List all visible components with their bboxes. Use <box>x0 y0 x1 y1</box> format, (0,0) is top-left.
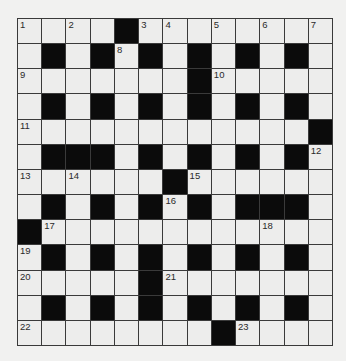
answer-cell[interactable]: 12 <box>309 145 332 169</box>
answer-cell[interactable] <box>115 245 138 269</box>
answer-cell[interactable]: 8 <box>115 44 138 68</box>
answer-cell[interactable] <box>309 69 332 93</box>
answer-cell[interactable] <box>163 94 186 118</box>
answer-cell[interactable]: 2 <box>66 19 89 43</box>
answer-cell[interactable] <box>309 321 332 345</box>
answer-cell[interactable] <box>66 195 89 219</box>
answer-cell[interactable] <box>66 245 89 269</box>
answer-cell[interactable] <box>18 44 41 68</box>
answer-cell[interactable] <box>66 271 89 295</box>
answer-cell[interactable] <box>91 271 114 295</box>
answer-cell[interactable] <box>260 296 283 320</box>
answer-cell[interactable]: 4 <box>163 19 186 43</box>
answer-cell[interactable] <box>260 69 283 93</box>
answer-cell[interactable] <box>163 120 186 144</box>
answer-cell[interactable] <box>309 271 332 295</box>
answer-cell[interactable]: 22 <box>18 321 41 345</box>
answer-cell[interactable] <box>236 220 259 244</box>
answer-cell[interactable] <box>139 69 162 93</box>
answer-cell[interactable] <box>42 321 65 345</box>
answer-cell[interactable] <box>139 170 162 194</box>
answer-cell[interactable] <box>309 94 332 118</box>
answer-cell[interactable] <box>236 271 259 295</box>
answer-cell[interactable] <box>285 69 308 93</box>
answer-cell[interactable]: 13 <box>18 170 41 194</box>
answer-cell[interactable] <box>309 245 332 269</box>
answer-cell[interactable]: 20 <box>18 271 41 295</box>
answer-cell[interactable] <box>66 120 89 144</box>
answer-cell[interactable] <box>260 145 283 169</box>
answer-cell[interactable] <box>115 195 138 219</box>
answer-cell[interactable] <box>115 170 138 194</box>
answer-cell[interactable] <box>66 296 89 320</box>
answer-cell[interactable] <box>91 321 114 345</box>
answer-cell[interactable] <box>285 220 308 244</box>
answer-cell[interactable] <box>91 220 114 244</box>
answer-cell[interactable] <box>236 170 259 194</box>
answer-cell[interactable] <box>260 271 283 295</box>
answer-cell[interactable] <box>212 145 235 169</box>
answer-cell[interactable]: 9 <box>18 69 41 93</box>
answer-cell[interactable]: 15 <box>188 170 211 194</box>
answer-cell[interactable] <box>309 195 332 219</box>
answer-cell[interactable] <box>18 145 41 169</box>
answer-cell[interactable] <box>260 321 283 345</box>
answer-cell[interactable] <box>260 120 283 144</box>
answer-cell[interactable]: 19 <box>18 245 41 269</box>
answer-cell[interactable] <box>66 69 89 93</box>
answer-cell[interactable] <box>66 220 89 244</box>
answer-cell[interactable] <box>115 94 138 118</box>
answer-cell[interactable] <box>236 120 259 144</box>
answer-cell[interactable] <box>163 44 186 68</box>
answer-cell[interactable] <box>260 44 283 68</box>
answer-cell[interactable] <box>163 245 186 269</box>
answer-cell[interactable] <box>66 94 89 118</box>
answer-cell[interactable] <box>42 19 65 43</box>
answer-cell[interactable] <box>139 220 162 244</box>
answer-cell[interactable]: 3 <box>139 19 162 43</box>
answer-cell[interactable] <box>188 120 211 144</box>
answer-cell[interactable] <box>260 170 283 194</box>
answer-cell[interactable] <box>260 245 283 269</box>
answer-cell[interactable] <box>212 271 235 295</box>
answer-cell[interactable] <box>42 271 65 295</box>
answer-cell[interactable] <box>309 220 332 244</box>
answer-cell[interactable] <box>212 296 235 320</box>
answer-cell[interactable]: 14 <box>66 170 89 194</box>
answer-cell[interactable] <box>115 69 138 93</box>
answer-cell[interactable] <box>163 220 186 244</box>
answer-cell[interactable] <box>212 195 235 219</box>
answer-cell[interactable] <box>212 94 235 118</box>
answer-cell[interactable] <box>285 321 308 345</box>
answer-cell[interactable] <box>91 69 114 93</box>
answer-cell[interactable] <box>163 69 186 93</box>
answer-cell[interactable] <box>309 170 332 194</box>
answer-cell[interactable]: 17 <box>42 220 65 244</box>
answer-cell[interactable] <box>188 19 211 43</box>
answer-cell[interactable] <box>115 296 138 320</box>
answer-cell[interactable] <box>212 120 235 144</box>
answer-cell[interactable] <box>285 271 308 295</box>
answer-cell[interactable] <box>163 296 186 320</box>
answer-cell[interactable] <box>139 321 162 345</box>
answer-cell[interactable] <box>188 321 211 345</box>
answer-cell[interactable] <box>236 69 259 93</box>
answer-cell[interactable]: 7 <box>309 19 332 43</box>
answer-cell[interactable] <box>260 94 283 118</box>
answer-cell[interactable] <box>212 44 235 68</box>
answer-cell[interactable]: 23 <box>236 321 259 345</box>
answer-cell[interactable] <box>212 245 235 269</box>
answer-cell[interactable] <box>42 120 65 144</box>
answer-cell[interactable]: 11 <box>18 120 41 144</box>
answer-cell[interactable] <box>66 321 89 345</box>
answer-cell[interactable] <box>163 145 186 169</box>
answer-cell[interactable]: 21 <box>163 271 186 295</box>
answer-cell[interactable] <box>309 44 332 68</box>
answer-cell[interactable] <box>163 321 186 345</box>
answer-cell[interactable]: 5 <box>212 19 235 43</box>
answer-cell[interactable] <box>115 145 138 169</box>
answer-cell[interactable] <box>236 19 259 43</box>
answer-cell[interactable] <box>188 271 211 295</box>
answer-cell[interactable] <box>115 271 138 295</box>
answer-cell[interactable] <box>212 220 235 244</box>
